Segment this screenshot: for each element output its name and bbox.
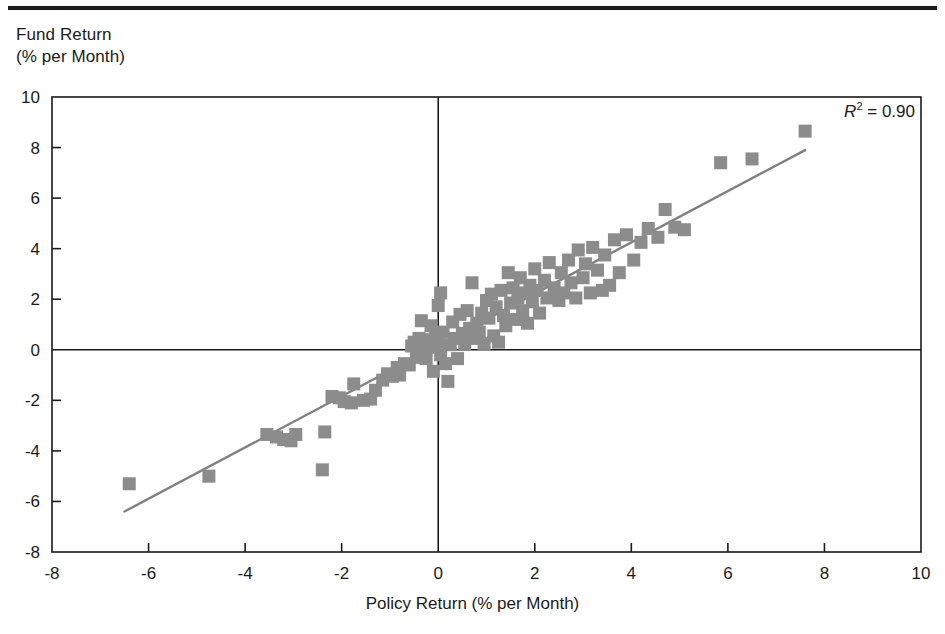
r-value: = 0.90: [867, 102, 915, 121]
scatter-plot-canvas: -8-6-4-20246810-8-6-4-20246810: [0, 0, 945, 634]
data-point-marker: [526, 295, 539, 308]
data-point-marker: [316, 463, 329, 476]
data-point-marker: [466, 276, 479, 289]
x-axis-tick-label: 8: [820, 564, 829, 583]
data-point-marker: [494, 284, 507, 297]
scatter-series: [123, 125, 812, 491]
data-point-marker: [627, 254, 640, 267]
data-point-marker: [123, 477, 136, 490]
data-point-marker: [564, 276, 577, 289]
data-point-marker: [451, 352, 464, 365]
x-axis-tick-label: 10: [912, 564, 931, 583]
y-axis-tick-label: -6: [25, 492, 40, 511]
data-point-marker: [543, 256, 556, 269]
x-axis-tick-label: -2: [334, 564, 349, 583]
data-point-marker: [579, 257, 592, 270]
r-squared-annotation: R2 = 0.90: [844, 100, 915, 122]
data-point-marker: [569, 291, 582, 304]
data-point-marker: [482, 312, 495, 325]
data-point-marker: [714, 156, 727, 169]
data-point-marker: [586, 241, 599, 254]
data-point-marker: [584, 286, 597, 299]
data-point-marker: [434, 286, 447, 299]
y-axis-tick-label: 0: [31, 341, 40, 360]
data-point-marker: [347, 377, 360, 390]
data-point-marker: [577, 271, 590, 284]
data-point-marker: [441, 375, 454, 388]
data-point-marker: [746, 152, 759, 165]
y-axis-tick-label: -2: [25, 391, 40, 410]
data-point-marker: [345, 396, 358, 409]
data-point-marker: [620, 228, 633, 241]
data-point-marker: [521, 317, 534, 330]
data-point-marker: [603, 279, 616, 292]
data-point-marker: [533, 307, 546, 320]
data-point-marker: [659, 203, 672, 216]
x-axis-tick-label: -4: [238, 564, 253, 583]
data-point-marker: [528, 262, 541, 275]
data-point-marker: [678, 223, 691, 236]
data-point-marker: [492, 336, 505, 349]
x-axis-tick-label: -8: [44, 564, 59, 583]
data-point-marker: [572, 243, 585, 256]
data-point-marker: [202, 470, 215, 483]
x-axis-tick-label: 0: [433, 564, 442, 583]
y-axis-tick-label: 8: [31, 139, 40, 158]
data-point-marker: [427, 365, 440, 378]
data-point-marker: [473, 326, 486, 339]
y-axis-tick-label: -8: [25, 543, 40, 562]
r-symbol: R: [844, 102, 856, 121]
y-axis-tick-label: 10: [21, 88, 40, 107]
x-axis-tick-label: -6: [141, 564, 156, 583]
data-point-marker: [502, 266, 515, 279]
data-point-marker: [634, 236, 647, 249]
data-point-marker: [608, 233, 621, 246]
x-axis-tick-label: 6: [723, 564, 732, 583]
data-point-marker: [432, 299, 445, 312]
y-axis-tick-label: 2: [31, 290, 40, 309]
data-point-marker: [613, 266, 626, 279]
data-point-marker: [591, 264, 604, 277]
data-point-marker: [318, 425, 331, 438]
x-axis-tick-label: 4: [627, 564, 636, 583]
y-axis-tick-label: 6: [31, 189, 40, 208]
data-point-marker: [651, 231, 664, 244]
data-point-marker: [439, 357, 452, 370]
x-axis-tick-label: 2: [530, 564, 539, 583]
r-exponent: 2: [856, 100, 862, 112]
data-point-marker: [420, 352, 433, 365]
chart-figure: Fund Return (% per Month) -8-6-4-2024681…: [0, 0, 945, 634]
data-point-marker: [598, 248, 611, 261]
data-point-marker: [461, 304, 474, 317]
x-axis-title: Policy Return (% per Month): [0, 594, 945, 614]
data-point-marker: [289, 428, 302, 441]
y-axis-tick-label: -4: [25, 442, 40, 461]
y-axis-tick-label: 4: [31, 240, 40, 259]
data-point-marker: [799, 125, 812, 138]
